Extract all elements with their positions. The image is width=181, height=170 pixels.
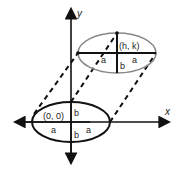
lower-b-bottom: b bbox=[74, 130, 79, 140]
upper-a-right: a bbox=[132, 55, 137, 65]
ellipse-translation-diagram: y x (0, 0) b b a a (h, k) a a b bbox=[0, 0, 181, 170]
lower-a-right: a bbox=[86, 125, 91, 135]
lower-a-left: a bbox=[51, 125, 56, 135]
y-axis-label: y bbox=[76, 8, 83, 19]
lower-center-label: (0, 0) bbox=[43, 111, 64, 121]
upper-a-left: a bbox=[101, 55, 106, 65]
upper-ellipse: (h, k) a a b bbox=[76, 31, 156, 73]
lower-b-top: b bbox=[74, 108, 79, 118]
upper-center-label: (h, k) bbox=[119, 41, 140, 51]
upper-b: b bbox=[120, 61, 125, 71]
x-axis-label: x bbox=[164, 106, 171, 117]
